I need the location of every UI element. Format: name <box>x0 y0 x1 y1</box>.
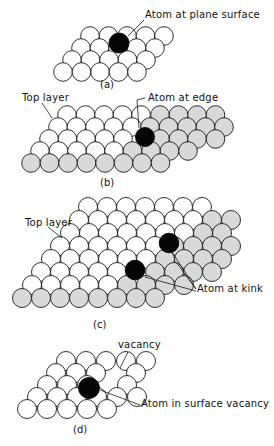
substrate-atom <box>114 154 133 173</box>
label-vacancy: vacancy <box>118 340 161 350</box>
substrate-atom <box>108 289 127 308</box>
substrate-atom <box>179 142 198 161</box>
label-top-layer-c: Top layer <box>25 218 72 228</box>
substrate-atom <box>89 289 108 308</box>
panel-d-atoms <box>18 352 156 419</box>
substrate-atom <box>203 263 222 282</box>
panel-a-atoms <box>54 27 174 82</box>
surface-atom <box>78 400 97 419</box>
substrate-atom <box>70 289 89 308</box>
substrate-atom <box>32 289 51 308</box>
substrate-atom <box>40 154 59 173</box>
surface-atom <box>18 400 37 419</box>
surface-atom <box>58 400 77 419</box>
caption-panel-d: (d) <box>73 425 87 435</box>
label-atom-at-edge: Atom at edge <box>148 93 218 103</box>
substrate-atom <box>13 289 32 308</box>
highlighted-atom <box>136 128 155 147</box>
substrate-atom <box>133 154 152 173</box>
label-top-layer-b: Top layer <box>22 93 69 103</box>
substrate-atom <box>206 130 225 149</box>
leader-line <box>48 227 62 238</box>
substrate-atom <box>151 154 170 173</box>
caption-panel-c: (c) <box>93 320 106 330</box>
panel-b-atoms <box>22 106 234 173</box>
substrate-atom <box>127 289 146 308</box>
caption-panel-b: (b) <box>100 178 114 188</box>
substrate-atom <box>146 289 165 308</box>
label-atom-in-surface-vacancy: Atom in surface vacancy <box>141 399 269 409</box>
substrate-atom <box>22 154 41 173</box>
caption-panel-a: (a) <box>100 80 114 90</box>
surface-atom <box>128 63 147 82</box>
substrate-atom <box>96 154 115 173</box>
leader-line <box>42 103 52 118</box>
surface-atom <box>38 400 57 419</box>
substrate-atom <box>175 276 194 295</box>
highlighted-atom <box>125 260 145 280</box>
label-atom-at-plane-surface: Atom at plane surface <box>145 10 260 20</box>
surface-atom <box>98 400 117 419</box>
substrate-atom <box>77 154 96 173</box>
substrate-atom <box>51 289 70 308</box>
surface-atom <box>72 63 91 82</box>
highlighted-atom <box>79 378 100 399</box>
label-atom-at-kink: Atom at kink <box>197 284 263 294</box>
highlighted-atom <box>109 33 129 53</box>
highlighted-atom <box>159 233 179 253</box>
surface-atom <box>54 63 73 82</box>
substrate-atom <box>59 154 78 173</box>
